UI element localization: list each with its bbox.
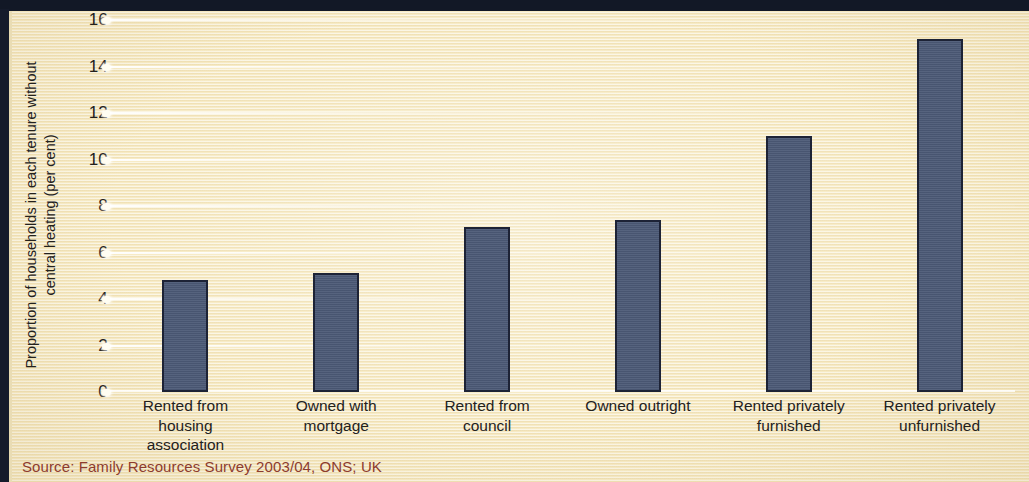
x-axis-category-label: Rented fromcouncil xyxy=(407,396,567,435)
x-axis-category-label: Rented privatelyunfurnished xyxy=(860,396,1020,435)
category-label-line: Rented privately xyxy=(709,396,869,416)
category-label-line: Owned outright xyxy=(558,396,718,416)
source-note: Source: Family Resources Survey 2003/04,… xyxy=(22,458,382,475)
x-axis-category-label: Rented privatelyfurnished xyxy=(709,396,869,435)
category-label-line: housing xyxy=(105,416,265,436)
category-label-line: Rented from xyxy=(407,396,567,416)
bar xyxy=(464,227,510,392)
scan-left-spine-edge xyxy=(9,11,12,482)
category-label-line: unfurnished xyxy=(860,416,1020,436)
bar xyxy=(615,220,661,392)
bar xyxy=(162,280,208,392)
x-axis-category-labels: Rented fromhousingassociationOwned withm… xyxy=(110,396,1015,456)
y-axis-title: Proportion of households in each tenure … xyxy=(18,60,64,370)
x-axis-category-label: Owned outright xyxy=(558,396,718,416)
category-label-line: council xyxy=(407,416,567,436)
x-axis-category-label: Owned withmortgage xyxy=(256,396,416,435)
bar xyxy=(917,39,963,392)
chart-figure: Proportion of households in each tenure … xyxy=(0,0,1029,482)
category-label-line: Rented privately xyxy=(860,396,1020,416)
category-label-line: mortgage xyxy=(256,416,416,436)
category-label-line: association xyxy=(105,435,265,455)
bar xyxy=(766,136,812,392)
x-axis-category-label: Rented fromhousingassociation xyxy=(105,396,265,455)
category-label-line: Owned with xyxy=(256,396,416,416)
y-axis-title-text: Proportion of households in each tenure … xyxy=(22,60,60,370)
scan-top-band xyxy=(0,0,1029,11)
bar xyxy=(313,273,359,392)
category-label-line: Rented from xyxy=(105,396,265,416)
category-label-line: furnished xyxy=(709,416,869,436)
scan-left-spine xyxy=(0,9,9,482)
bar-series xyxy=(110,20,1015,392)
plot-area: 0246810121416 xyxy=(110,20,1015,392)
